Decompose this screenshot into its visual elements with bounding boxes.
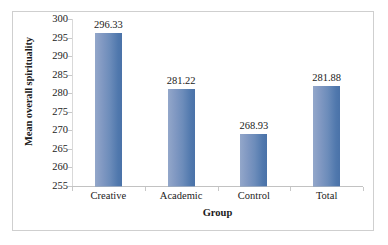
y-axis-tick-label: 265 <box>32 144 68 154</box>
y-axis-tick-label: 300 <box>32 14 68 24</box>
y-axis-tick-label: 285 <box>32 70 68 80</box>
bar-value-label: 281.88 <box>297 72 357 83</box>
y-axis-tick-label: 295 <box>32 33 68 43</box>
y-axis-tick-label: 280 <box>32 88 68 98</box>
y-axis-tick-label: 260 <box>32 162 68 172</box>
bar-value-label: 268.93 <box>224 120 284 131</box>
bar <box>95 33 122 187</box>
bar <box>313 86 340 187</box>
y-axis-tick-label: 270 <box>32 125 68 135</box>
x-axis-category-label: Academic <box>141 190 221 201</box>
x-axis-title: Group <box>72 207 363 218</box>
x-axis-category-label: Total <box>287 190 367 201</box>
y-axis-tick-label: 255 <box>32 181 68 191</box>
y-axis-tick-labels: 300295290285280275270265260255 <box>32 14 68 190</box>
bar <box>240 134 267 187</box>
x-axis-category-label: Creative <box>68 190 148 201</box>
bar <box>168 89 195 187</box>
bar-chart-figure: Mean overall spirituality 30029529028528… <box>0 0 388 245</box>
y-axis-tick-label: 290 <box>32 51 68 61</box>
y-axis-tick-label: 275 <box>32 107 68 117</box>
bar-value-label: 281.22 <box>151 75 211 86</box>
x-axis-category-label: Control <box>214 190 294 201</box>
bar-value-label: 296.33 <box>78 19 138 30</box>
